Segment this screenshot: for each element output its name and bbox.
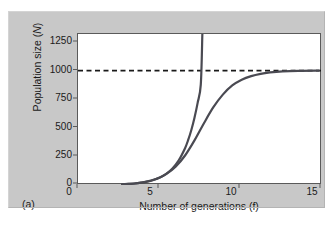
y-tick-1000: 1000: [32, 65, 72, 75]
x-tick-5: 5: [135, 186, 165, 197]
x-axis-label-text: Number of generations (f): [139, 200, 259, 212]
x-axis-label: Number of generations (f): [77, 200, 321, 212]
figure-container: Population size (N) 1250 1000 750 500 25…: [0, 0, 334, 225]
x-tick-0: 0: [54, 186, 84, 197]
series-exponential-growth: [122, 34, 202, 184]
plot-area: [77, 33, 321, 184]
x-tick-10: 10: [216, 186, 246, 197]
figure-panel: Population size (N) 1250 1000 750 500 25…: [8, 11, 325, 208]
y-tick-250: 250: [32, 150, 72, 160]
x-tick-15: 15: [297, 186, 327, 197]
chart-svg: [78, 34, 322, 185]
y-tick-750: 750: [32, 93, 72, 103]
panel-letter: (a): [22, 198, 35, 210]
y-tick-1250: 1250: [32, 36, 72, 46]
series-logistic-growth: [122, 71, 319, 185]
y-tick-500: 500: [32, 122, 72, 132]
